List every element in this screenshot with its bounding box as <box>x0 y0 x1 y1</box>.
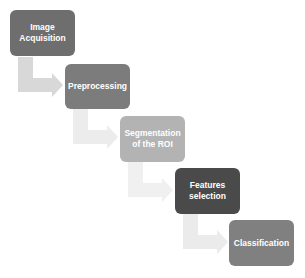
step-segmentation-roi: Segmentation of the ROI <box>120 116 185 162</box>
flow-arrow-4 <box>183 214 228 254</box>
flow-arrow-3 <box>128 162 173 202</box>
step-classification: Classification <box>229 220 294 266</box>
step-label-line1: Preprocessing <box>68 81 127 92</box>
flow-arrow-1 <box>18 57 63 97</box>
step-label-line2: selection <box>189 191 226 202</box>
step-image-acquisition: Image Acquisition <box>10 10 75 56</box>
step-preprocessing: Preprocessing <box>65 64 130 109</box>
step-label-line2: Acquisition <box>19 33 65 44</box>
step-label-line1: Segmentation <box>124 128 180 139</box>
step-label-line2: of the ROI <box>124 139 180 150</box>
step-label-line1: Features <box>189 180 226 191</box>
step-label-line1: Image <box>19 22 65 33</box>
step-features-selection: Features selection <box>175 168 240 214</box>
step-label-line1: Classification <box>234 238 289 249</box>
flow-arrow-2 <box>73 109 118 149</box>
